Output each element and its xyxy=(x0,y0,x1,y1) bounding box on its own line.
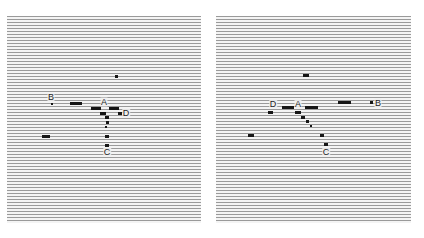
left-dash-1 xyxy=(70,102,82,105)
right-dot-4 xyxy=(310,125,312,127)
left-top-dot xyxy=(115,75,118,78)
right-striped-panel xyxy=(216,16,411,223)
left-dot-1 xyxy=(100,112,106,115)
right-dot-2 xyxy=(301,116,305,119)
right-dash-1 xyxy=(282,106,294,109)
right-dot-3 xyxy=(306,120,309,123)
right-dash-2 xyxy=(305,106,318,109)
right-far-dash xyxy=(248,134,254,137)
left-striped-panel xyxy=(7,16,201,223)
right-dot-5 xyxy=(320,134,324,137)
left-label-d: D xyxy=(122,109,130,118)
left-dot-4 xyxy=(105,126,107,128)
left-label-a: A xyxy=(100,98,107,107)
right-dot-1 xyxy=(295,111,301,114)
right-label-c: C xyxy=(322,148,330,157)
right-top-dash xyxy=(303,74,309,77)
left-dash-2 xyxy=(91,107,101,110)
right-label-d: D xyxy=(269,100,277,109)
left-dot-2 xyxy=(105,116,109,119)
left-label-b: B xyxy=(47,93,54,102)
right-b-dot xyxy=(370,101,373,104)
left-dash-3 xyxy=(109,107,119,110)
left-dot-5 xyxy=(105,135,109,138)
right-label-a: A xyxy=(294,100,301,109)
right-label-b: B xyxy=(374,99,381,108)
left-dot-3 xyxy=(106,121,109,124)
left-b-dot xyxy=(51,103,53,105)
right-d-dot xyxy=(268,111,273,114)
left-far-dash xyxy=(42,135,50,138)
left-label-c: C xyxy=(103,148,111,157)
right-b-dash xyxy=(338,101,351,104)
